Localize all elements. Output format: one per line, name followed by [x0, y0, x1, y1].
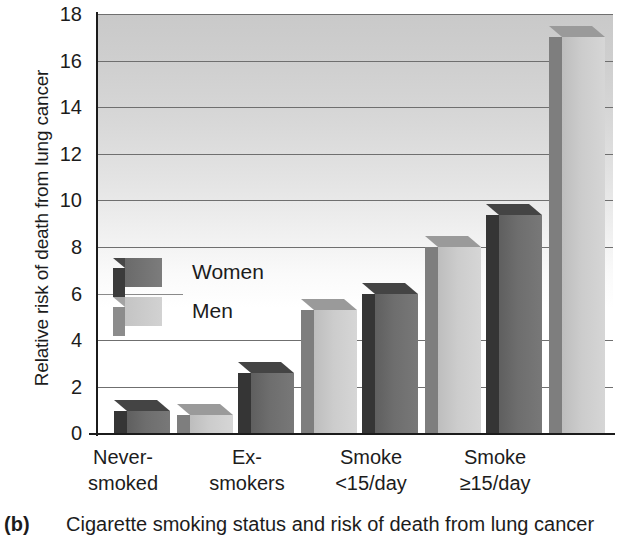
y-axis-line: [96, 12, 98, 436]
caption-tag: (b): [4, 512, 30, 536]
bar-front: [190, 415, 233, 434]
bar-side: [177, 415, 190, 434]
gridline-18: [97, 14, 613, 15]
gridline-12: [97, 154, 613, 155]
bar-top: [425, 236, 481, 247]
bar-front: [251, 373, 294, 434]
gridline-10: [97, 200, 613, 201]
bar-men-smoke-lt15: [438, 247, 481, 434]
bar-women-smoke-gte15: [499, 215, 542, 434]
gridline-16: [97, 61, 613, 62]
bar-front: [562, 37, 605, 434]
bar-side: [238, 373, 251, 434]
y-tick-4: 4: [6, 330, 82, 350]
bar-top: [549, 26, 605, 37]
x-tick-smoke-gte15: Smoke ≥15/day: [415, 444, 575, 496]
figure-lung-cancer-risk: Relative risk of death from lung cancer: [0, 0, 621, 559]
x-tick-line-1: Smoke: [415, 444, 575, 470]
bar-top: [114, 400, 170, 411]
bar-top: [486, 204, 542, 215]
bar-men-never-smoked: [190, 415, 233, 434]
y-tick-12: 12: [6, 144, 82, 164]
bar-women-never-smoked: [127, 411, 170, 434]
x-tick-line-2: ≥15/day: [415, 470, 575, 496]
bar-women-ex-smokers: [251, 373, 294, 434]
bar-side: [301, 310, 314, 434]
bar-front: [438, 247, 481, 434]
bar-women-smoke-lt15: [375, 294, 418, 434]
bar-top: [177, 404, 233, 415]
bar-men-ex-smokers: [314, 310, 357, 434]
caption-text: Cigarette smoking status and risk of dea…: [66, 512, 594, 536]
y-tick-6: 6: [6, 284, 82, 304]
gridline-6: [97, 294, 183, 295]
bar-front: [314, 310, 357, 434]
y-tick-16: 16: [6, 51, 82, 71]
y-tick-0: 0: [6, 423, 82, 443]
y-tick-18: 18: [6, 4, 82, 24]
bar-side: [362, 294, 375, 434]
bar-top: [301, 299, 357, 310]
bar-front: [127, 411, 170, 434]
bar-front: [375, 294, 418, 434]
x-axis-line: [89, 433, 615, 435]
y-tick-2: 2: [6, 377, 82, 397]
y-tick-10: 10: [6, 190, 82, 210]
plot-area: [97, 14, 613, 434]
women-cube-icon: [125, 258, 162, 287]
bar-side: [549, 37, 562, 434]
bar-side: [114, 411, 127, 434]
bar-men-smoke-gte15: [562, 37, 605, 434]
y-tick-14: 14: [6, 97, 82, 117]
gridline-14: [97, 107, 613, 108]
men-cube-icon: [125, 297, 162, 326]
legend-label-women: Women: [192, 257, 264, 287]
bar-side: [425, 247, 438, 434]
bar-side: [486, 215, 499, 434]
y-tick-8: 8: [6, 237, 82, 257]
bar-top: [362, 283, 418, 294]
legend-label-men: Men: [192, 296, 233, 326]
bar-top: [238, 362, 294, 373]
bar-front: [499, 215, 542, 434]
